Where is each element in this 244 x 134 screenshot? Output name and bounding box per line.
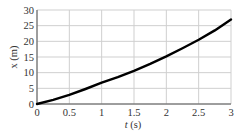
y-tick-label: 10 <box>24 67 35 78</box>
x-tick-label: 0 <box>34 107 39 118</box>
x-tick-label: 0.5 <box>63 107 76 118</box>
x-axis-label: t (s) <box>125 119 142 131</box>
y-tick-label: 25 <box>24 20 35 31</box>
y-tick-label: 20 <box>24 36 35 47</box>
y-tick-label: 15 <box>24 52 35 63</box>
y-tick-labels: 051015202530 <box>24 5 35 110</box>
y-tick-label: 0 <box>29 99 34 110</box>
x-tick-label: 2.5 <box>192 107 205 118</box>
grid-lines <box>37 10 231 104</box>
x-tick-label: 3 <box>228 107 233 118</box>
position-time-chart: 051015202530 00.511.522.53 x (m) t (s) <box>0 0 244 134</box>
x-tick-label: 1.5 <box>127 107 140 118</box>
y-tick-label: 5 <box>29 83 34 94</box>
x-tick-label: 2 <box>164 107 169 118</box>
x-tick-label: 1 <box>99 107 104 118</box>
y-axis-label: x (m) <box>8 45 20 69</box>
x-tick-labels: 00.511.522.53 <box>34 107 233 118</box>
y-tick-label: 30 <box>24 5 35 16</box>
x-axis-unit: (s) <box>128 119 142 131</box>
